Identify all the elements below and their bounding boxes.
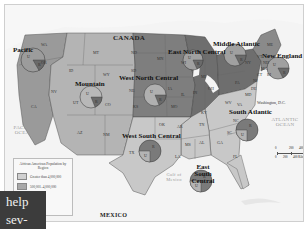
state-label: MO bbox=[171, 105, 177, 109]
overlay-line-1: help bbox=[6, 195, 28, 208]
pie-west-south-central bbox=[139, 140, 161, 162]
state-label: DE bbox=[251, 87, 256, 91]
label-region-west-north-central: West North Central bbox=[119, 75, 178, 82]
label-gulf-of-mexico: Gulf of Mexico bbox=[163, 173, 185, 182]
state-label: FL bbox=[233, 155, 238, 159]
state-label: LA bbox=[175, 155, 180, 159]
legend-label: Greater than 4,000,000 bbox=[30, 175, 61, 179]
pie-mountain bbox=[80, 86, 102, 108]
state-label: VT bbox=[257, 55, 262, 59]
overlay-line-2: sev- bbox=[6, 213, 28, 226]
legend-item: 500,001–4,000,000 bbox=[17, 183, 69, 190]
state-label: UT bbox=[73, 101, 78, 105]
label-region-south-atlantic: South Atlantic bbox=[229, 109, 272, 116]
legend-swatch bbox=[17, 173, 27, 180]
state-label: GA bbox=[217, 141, 223, 145]
scale-km-200: 200 bbox=[283, 156, 288, 159]
text-overlay-fragment: help sev- bbox=[0, 191, 46, 229]
scale-miles-0: 0 bbox=[275, 147, 277, 150]
pie-urban-label: U bbox=[230, 51, 233, 55]
state-label: IA bbox=[168, 87, 172, 91]
state-label: NY bbox=[245, 61, 251, 65]
state-label: NE bbox=[129, 89, 134, 93]
state-label: NC bbox=[233, 119, 239, 123]
state-label: ND bbox=[131, 51, 137, 55]
legend-label: 500,001–4,000,000 bbox=[30, 185, 56, 189]
state-label: ID bbox=[69, 69, 73, 73]
state-label: WY bbox=[103, 73, 110, 77]
scale-bar: 0 200 400 Miles 0 200 400 Kilometers bbox=[275, 147, 304, 161]
state-label: WV bbox=[225, 101, 232, 105]
pie-south-atlantic bbox=[236, 119, 258, 141]
state-label: MT bbox=[93, 51, 99, 55]
state-label: KS bbox=[133, 105, 138, 109]
state-label: OR bbox=[41, 61, 47, 65]
state-label: CT bbox=[257, 73, 262, 77]
pie-rural-label: R bbox=[203, 175, 206, 179]
state-label: ME bbox=[267, 43, 273, 47]
state-label: CA bbox=[31, 105, 37, 109]
pie-urban-label: U bbox=[144, 154, 147, 158]
state-label: OK bbox=[159, 123, 165, 127]
label-region-east-north-central: East North Central bbox=[168, 49, 226, 56]
legend-swatch bbox=[17, 183, 27, 190]
state-label: TN bbox=[199, 123, 204, 127]
pie-urban-label: U bbox=[150, 90, 153, 94]
pie-urban-label: U bbox=[241, 133, 244, 137]
pie-rural-label: R bbox=[152, 145, 155, 149]
state-label: IN bbox=[193, 91, 197, 95]
state-label: VA bbox=[237, 103, 242, 107]
pie-rural-label: R bbox=[95, 100, 98, 104]
state-label: MI bbox=[201, 75, 206, 79]
state-label: NJ bbox=[253, 79, 257, 83]
label-mexico: MEXICO bbox=[100, 212, 127, 218]
pie-rural-label: R bbox=[197, 62, 200, 66]
state-label: WI bbox=[181, 61, 186, 65]
state-label: AZ bbox=[77, 131, 82, 135]
label-washington-dc: Washington, D.C. bbox=[257, 101, 286, 105]
state-label: OH bbox=[208, 87, 214, 91]
pie-urban-label: U bbox=[27, 55, 30, 59]
scale-km-0: 0 bbox=[275, 156, 277, 159]
state-label: NV bbox=[51, 90, 57, 94]
label-region-west-south-central: West South Central bbox=[122, 133, 181, 140]
pie-rural-label: R bbox=[240, 58, 243, 62]
pie-urban-label: U bbox=[195, 184, 198, 188]
label-region-middle-atlantic: Middle Atlantic bbox=[213, 41, 260, 48]
pie-urban-label: U bbox=[273, 63, 276, 67]
legend-title: African American Population by Region bbox=[17, 162, 69, 170]
state-label: TX bbox=[129, 151, 134, 155]
state-label: IL bbox=[181, 93, 185, 97]
state-label: NH bbox=[263, 61, 269, 65]
scale-miles-400: 400 Miles bbox=[299, 147, 304, 150]
pie-urban-label: U bbox=[188, 56, 191, 60]
state-label: SC bbox=[227, 131, 232, 135]
pie-rural-label: R bbox=[249, 124, 252, 128]
legend-item: Greater than 4,000,000 bbox=[17, 173, 69, 180]
state-label: MD bbox=[245, 93, 251, 97]
pie-rural-label: R bbox=[283, 71, 286, 75]
state-label: RI bbox=[267, 73, 271, 77]
pie-rural-label: R bbox=[159, 98, 162, 102]
state-label: CO bbox=[105, 103, 111, 107]
state-label: PA bbox=[235, 81, 240, 85]
scale-km-400: 400 Kilometers bbox=[293, 156, 304, 159]
label-pacific-ocean: PACIFIC OCEAN bbox=[9, 125, 39, 135]
label-region-mountain: Mountain bbox=[75, 81, 105, 88]
state-label: MS bbox=[185, 143, 191, 147]
state-label: KY bbox=[201, 111, 207, 115]
label-region-pacific: Pacific bbox=[13, 47, 33, 54]
pie-west-north-central bbox=[144, 84, 166, 106]
state-label: MN bbox=[157, 57, 163, 61]
state-label: NM bbox=[103, 133, 109, 137]
label-atlantic-ocean: ATLANTIC OCEAN bbox=[267, 117, 303, 127]
state-label: AR bbox=[177, 125, 183, 129]
state-label: AL bbox=[199, 141, 204, 145]
label-canada: CANADA bbox=[113, 35, 145, 42]
label-region-new-england: New England bbox=[262, 53, 302, 60]
state-label: WA bbox=[41, 43, 47, 47]
state-label: SD bbox=[131, 69, 136, 73]
scale-miles-200: 200 bbox=[289, 147, 294, 150]
state-label: MA bbox=[261, 67, 267, 71]
pie-urban-label: U bbox=[86, 92, 89, 96]
